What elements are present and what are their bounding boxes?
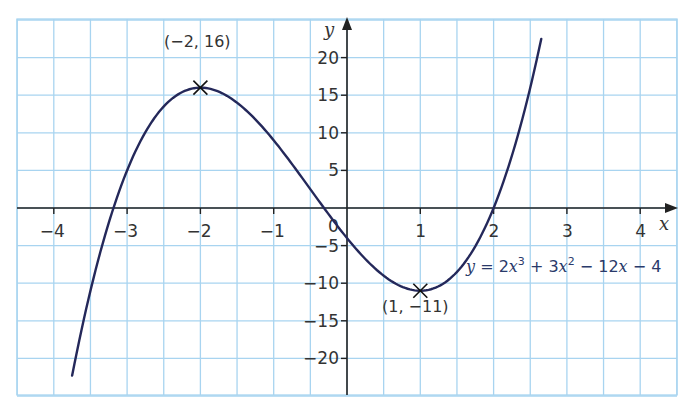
x-tick-label: 4: [635, 221, 646, 241]
y-tick-label: −10: [303, 273, 339, 293]
x-tick-label: −3: [113, 221, 138, 241]
x-axis-arrow-icon: [665, 203, 678, 213]
y-tick-label: 10: [317, 123, 339, 143]
min-point-label: (1, −11): [382, 297, 449, 316]
x-tick-label: −4: [40, 221, 65, 241]
axes: [17, 17, 678, 395]
x-tick-label: −1: [260, 221, 285, 241]
y-tick-label: 20: [317, 48, 339, 68]
equation-x: x: [509, 257, 518, 276]
y-axis-label: y: [323, 19, 335, 40]
max-point-label: (−2, 16): [164, 32, 231, 51]
y-tick-label: −5: [314, 236, 339, 256]
cubic-function-chart: −4−3−2−112342015105−5−10−15−20 x y 0 (−2…: [0, 0, 694, 410]
y-tick-label: −15: [303, 311, 339, 331]
equation-exponent: 3: [518, 255, 525, 268]
x-tick-label: 2: [489, 221, 500, 241]
y-tick-label: 15: [317, 85, 339, 105]
equation-exponent: 2: [568, 255, 575, 268]
equation-label: y = 2x3 + 3x2 − 12x − 4: [465, 255, 661, 276]
equation-x: x: [559, 257, 568, 276]
x-axis-label: x: [659, 213, 669, 234]
x-tick-label: 1: [415, 221, 426, 241]
y-tick-label: −20: [303, 348, 339, 368]
x-tick-label: 3: [562, 221, 573, 241]
x-tick-label: −2: [186, 221, 211, 241]
equation-part: = 2: [475, 257, 509, 276]
equation-x: x: [619, 257, 628, 276]
equation-part: − 4: [628, 257, 662, 276]
equation-part: − 12: [575, 257, 619, 276]
equation-part: + 3: [525, 257, 559, 276]
y-tick-label: 5: [328, 160, 339, 180]
